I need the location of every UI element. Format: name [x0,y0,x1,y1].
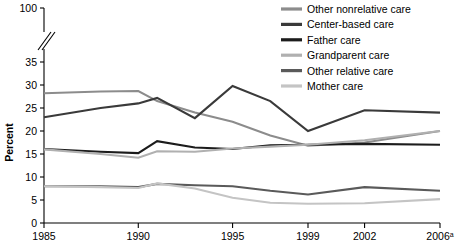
legend-label: Mother care [307,80,363,92]
legend-item[interactable]: Center-based care [281,18,394,30]
legend-item[interactable]: Grandparent care [281,49,389,61]
legend-item[interactable]: Mother care [281,80,363,92]
x-axis-tick-label: 1995 [221,230,245,242]
x-axis-tick-label: 1985 [32,230,56,242]
legend-label: Center-based care [307,18,394,30]
series-line-4 [44,184,440,195]
line-chart: 05101520253035100Percent1985199019951999… [0,0,470,250]
x-axis-tick-label: 1990 [127,230,151,242]
y-axis-tick-label: 10 [25,171,37,183]
y-axis-tick-label: 15 [25,148,37,160]
y-axis-tick-label: 5 [31,194,37,206]
y-axis-tick-label: 35 [25,56,37,68]
y-axis-tick-label: 25 [25,102,37,114]
legend-item[interactable]: Father care [281,34,361,46]
y-axis-break-icon [38,32,55,50]
y-axis-tick-label: 100 [19,2,37,14]
x-axis-tick-label: 1999 [296,230,320,242]
legend-label: Other nonrelative care [307,3,411,15]
chart-container: 05101520253035100Percent1985199019951999… [0,0,470,250]
x-axis-tick-label: 2002 [353,230,377,242]
y-axis-tick-label: 20 [25,125,37,137]
y-axis-tick-label: 30 [25,79,37,91]
y-axis-tick-label: 0 [31,217,37,229]
legend-label: Father care [307,34,361,46]
y-axis-title: Percent [3,123,15,162]
x-axis-tick-label: 2006a [426,230,453,242]
legend-label: Grandparent care [307,49,389,61]
x-axis-tick-label-superscript: a [450,231,454,238]
legend-label: Other relative care [307,65,394,77]
legend-item[interactable]: Other relative care [281,65,394,77]
legend-item[interactable]: Other nonrelative care [281,3,411,15]
